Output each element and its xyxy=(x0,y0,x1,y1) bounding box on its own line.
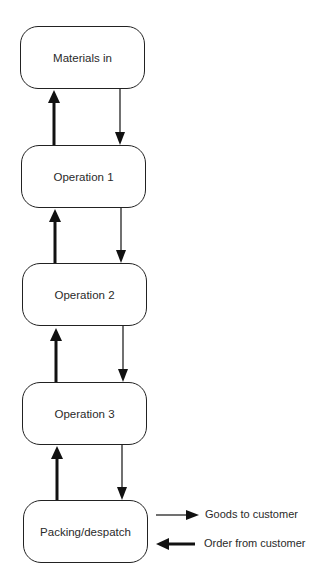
node-label: Packing/despatch xyxy=(40,526,131,538)
node-label: Materials in xyxy=(53,52,112,64)
node-label: Operation 3 xyxy=(54,408,114,420)
node-label: Operation 1 xyxy=(53,171,113,183)
node-operation-2: Operation 2 xyxy=(22,263,147,326)
node-operation-1: Operation 1 xyxy=(21,145,146,208)
node-materials-in: Materials in xyxy=(20,26,145,89)
node-label: Operation 2 xyxy=(54,289,114,301)
node-packing-despatch: Packing/despatch xyxy=(23,500,148,563)
goods-to-customer-label: Goods to customer xyxy=(205,508,298,520)
external-arrows xyxy=(156,510,199,550)
order-from-customer-label: Order from customer xyxy=(204,537,305,549)
node-operation-3: Operation 3 xyxy=(22,382,147,445)
